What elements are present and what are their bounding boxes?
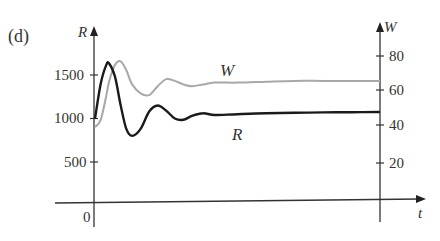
y-right-axis-label: W	[384, 19, 398, 35]
y-right-tick-20: 20	[389, 155, 404, 171]
series-w-label: W	[220, 61, 236, 80]
y-right-tick-60: 60	[389, 82, 404, 98]
y-axis-left: R 1500 1000 500	[54, 24, 98, 227]
x-axis: t 0	[55, 195, 426, 225]
x-axis-label: t	[418, 205, 423, 221]
y-right-tick-80: 80	[389, 48, 404, 64]
y-right-arrow-icon	[376, 22, 384, 32]
y-axis-right: W 80 60 40 20	[376, 19, 404, 222]
chart: (d) t 0 R 1500 1000 500 W 80 60 40 20 W …	[0, 0, 440, 241]
series-r-label: R	[231, 125, 243, 144]
y-right-tick-40: 40	[389, 117, 404, 133]
y-left-tick-1000: 1000	[54, 110, 84, 126]
panel-label: (d)	[8, 26, 29, 47]
y-left-axis-label: R	[77, 24, 87, 40]
x-tick-label-0: 0	[83, 209, 91, 225]
series-w-curve	[95, 61, 380, 127]
x-axis-arrow-icon	[416, 195, 426, 203]
y-left-arrow-icon	[90, 26, 98, 36]
y-left-tick-500: 500	[64, 154, 87, 170]
y-left-tick-1500: 1500	[54, 67, 84, 83]
